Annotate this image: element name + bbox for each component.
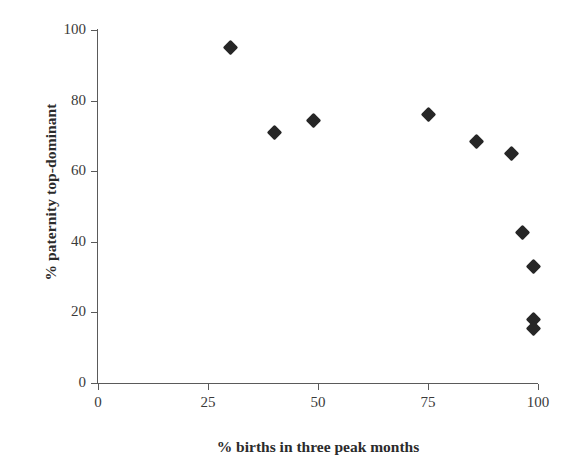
x-tick-label-text: 100 (508, 392, 561, 412)
y-axis-line (97, 29, 98, 384)
x-tick-label-text: 0 (68, 392, 128, 412)
y-axis-label: % paternity top-dominant (34, 0, 68, 392)
y-tick-label-text: 0 (46, 375, 86, 390)
x-tick-label: 0 (68, 392, 128, 412)
y-tick-label-text: 100 (46, 22, 86, 37)
x-tick-mark (98, 384, 99, 390)
y-tick-label: 60 (42, 163, 86, 179)
y-tick-label-text: 40 (46, 234, 86, 249)
data-point-marker (266, 125, 282, 141)
y-tick-mark (91, 242, 97, 243)
scatter-chart-figure: % paternity top-dominant % births in thr… (0, 0, 561, 472)
data-point-marker (222, 40, 238, 56)
x-axis-label: % births in three peak months (98, 438, 538, 456)
x-tick-label-text: 50 (288, 392, 348, 412)
x-tick-mark (208, 384, 209, 390)
x-tick-mark (318, 384, 319, 390)
y-tick-mark (91, 383, 97, 384)
x-tick-label: 25 (178, 392, 238, 412)
data-point-marker (469, 133, 485, 149)
y-tick-label-text: 60 (46, 163, 86, 178)
y-tick-label: 100 (42, 22, 86, 38)
x-tick-label: 100 (508, 392, 561, 412)
y-tick-mark (91, 171, 97, 172)
y-tick-label: 20 (42, 304, 86, 320)
x-tick-label: 75 (398, 392, 458, 412)
x-tick-mark (538, 384, 539, 390)
data-point-marker (526, 259, 542, 275)
y-tick-mark (91, 312, 97, 313)
x-tick-label-text: 25 (178, 392, 238, 412)
x-tick-mark (428, 384, 429, 390)
y-tick-label: 80 (42, 93, 86, 109)
y-tick-mark (91, 101, 97, 102)
data-point-marker (504, 146, 520, 162)
y-tick-mark (91, 30, 97, 31)
y-tick-label-text: 20 (46, 304, 86, 319)
data-point-marker (306, 112, 322, 128)
y-tick-label-text: 80 (46, 93, 86, 108)
data-point-marker (515, 225, 531, 241)
y-tick-label: 0 (42, 375, 86, 391)
data-point-marker (420, 107, 436, 123)
y-tick-label: 40 (42, 234, 86, 250)
x-tick-label: 50 (288, 392, 348, 412)
x-tick-label-text: 75 (398, 392, 458, 412)
